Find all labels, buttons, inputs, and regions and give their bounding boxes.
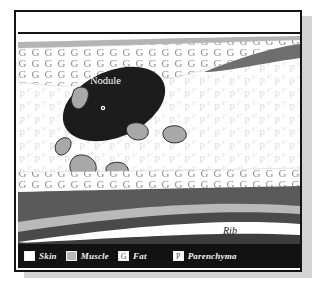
legend-item-skin: Skin xyxy=(24,251,57,261)
legend-swatch-skin xyxy=(24,251,35,261)
legend-bar: Skin Muscle G Fat P Parenchyma xyxy=(18,244,300,268)
figure-title-text xyxy=(18,14,300,22)
satellite-blob xyxy=(163,126,186,143)
legend-label-skin: Skin xyxy=(39,251,57,261)
legend-label-muscle: Muscle xyxy=(81,251,109,261)
legend-item-muscle: Muscle xyxy=(66,251,109,261)
legend-swatch-parenchyma: P xyxy=(173,251,184,261)
legend-swatch-glyph-fat: G xyxy=(119,251,128,261)
legend-swatch-muscle xyxy=(66,251,77,261)
nodule-center-dot-core xyxy=(102,107,104,109)
anatomy-canvas: G P P xyxy=(18,36,300,244)
legend-label-parenchyma: Parenchyma xyxy=(188,251,237,261)
legend-item-parenchyma: P Parenchyma xyxy=(173,251,237,261)
legend-item-fat: G Fat xyxy=(118,251,147,261)
satellite-blob xyxy=(126,123,148,140)
figure-frame: G P P xyxy=(14,10,302,272)
legend-swatch-glyph-parenchyma: P xyxy=(174,251,183,261)
anatomy-illustration: G P P xyxy=(18,36,300,244)
legend-swatch-fat: G xyxy=(118,251,129,261)
figure-title-strip xyxy=(18,14,300,34)
nodule-label: Nodule xyxy=(90,75,121,86)
figure-root: G P P xyxy=(0,0,317,282)
legend-label-fat: Fat xyxy=(133,251,147,261)
